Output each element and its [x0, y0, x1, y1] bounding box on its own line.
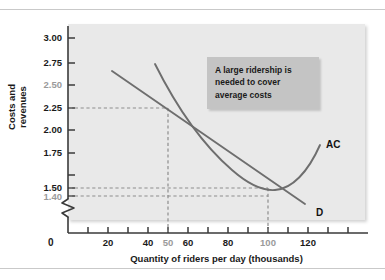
guide-lines: [69, 108, 268, 232]
x-axis-title: Quantity of riders per day (thousands): [68, 253, 365, 264]
annotation-line: average costs: [215, 89, 311, 101]
x-tick-label: 60: [175, 238, 201, 248]
y-tick-label: 2.75: [28, 58, 62, 68]
axis-break-symbol: [62, 199, 74, 217]
x-tick-marks: [88, 227, 348, 233]
annotation-callout: A large ridership is needed to cover ave…: [207, 57, 319, 109]
y-tick-label: 2.00: [28, 125, 62, 135]
origin-label: 0: [48, 238, 54, 248]
annotation-line: A large ridership is: [215, 64, 311, 76]
curve-label-d: D: [316, 208, 323, 218]
y-tick-label: 2.25: [28, 103, 62, 113]
y-tick-label: 1.40: [28, 192, 62, 202]
y-tick-label: 2.50: [28, 80, 62, 90]
x-tick-label: 80: [215, 238, 241, 248]
x-tick-label: 120: [295, 238, 321, 248]
y-tick-marks: [68, 38, 75, 196]
figure-container: 3.00 2.75 2.50 2.25 2.00 1.75 1.50 1.40 …: [0, 0, 385, 280]
y-tick-label: 1.75: [28, 148, 62, 158]
x-tick-label: 100: [255, 238, 281, 248]
annotation-line: needed to cover: [215, 76, 311, 88]
y-axis-title: Costs and revenues: [6, 63, 28, 151]
x-tick-label: 20: [95, 238, 121, 248]
curve-label-ac: AC: [326, 140, 340, 150]
y-tick-label: 3.00: [28, 33, 62, 43]
